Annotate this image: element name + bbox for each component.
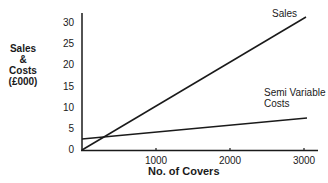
- sales-line: [82, 17, 306, 150]
- chart-plot: [0, 0, 328, 183]
- semi-variable-costs-line: [82, 118, 307, 139]
